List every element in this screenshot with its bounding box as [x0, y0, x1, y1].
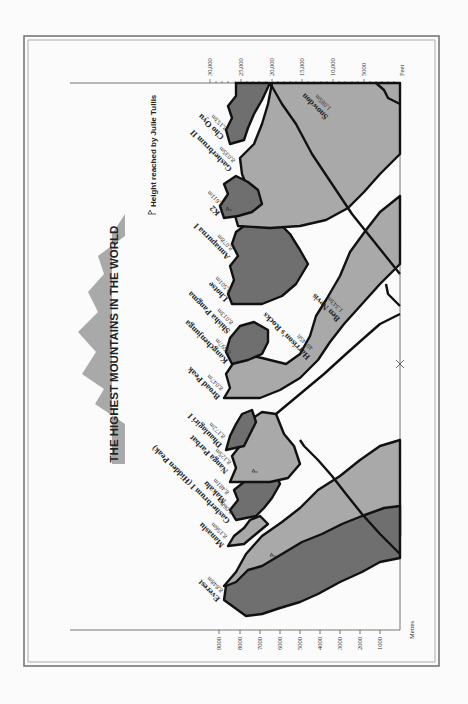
- left-tick: 5000: [296, 637, 303, 650]
- right-axis-label: Feet: [398, 65, 405, 76]
- lhotse-annapurna-shape: [228, 220, 308, 304]
- left-tick: 7000: [256, 637, 263, 650]
- left-tick: 6000: [276, 637, 283, 650]
- right-tick: 10,000: [329, 58, 336, 76]
- legend: Height reached by Julie Tullis: [148, 94, 158, 214]
- title-banner: THE HIGHEST MOUNTAINS IN THE WORLD: [78, 206, 126, 468]
- left-tick: 8000: [236, 637, 243, 650]
- mountain-chart: THE HIGHEST MOUNTAINS IN THE WORLD Heigh…: [0, 0, 468, 704]
- left-axis: 9000 8000 7000 6000 5000 4000 3000 2000 …: [70, 621, 415, 650]
- left-tick: 1000: [376, 637, 383, 650]
- right-tick: 15,000: [298, 58, 305, 76]
- left-tick: 9000: [215, 637, 222, 650]
- right-tick: 20,000: [268, 58, 275, 76]
- rotated-chart: THE HIGHEST MOUNTAINS IN THE WORLD Heigh…: [0, 0, 468, 704]
- left-axis-label: Metres: [408, 621, 415, 640]
- flag-icon: [148, 210, 156, 214]
- legend-label: Height reached by Julie Tullis: [149, 94, 158, 207]
- left-tick: 3000: [336, 637, 343, 650]
- left-tick: 4000: [316, 637, 323, 650]
- right-tick: 5000: [360, 63, 367, 76]
- ben-nevis-peak: [386, 284, 400, 306]
- chart-title: THE HIGHEST MOUNTAINS IN THE WORLD: [108, 226, 120, 463]
- left-tick: 2000: [356, 637, 363, 650]
- right-tick: 25,000: [237, 58, 244, 76]
- right-tick: 30,000: [206, 58, 213, 76]
- right-axis: 30,000 25,000 20,000 15,000 10,000 5000 …: [70, 58, 405, 83]
